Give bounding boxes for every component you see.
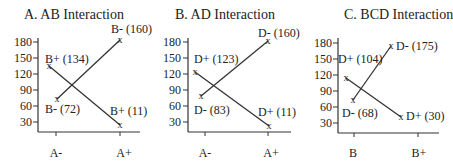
x-tick-label: B+ (412, 146, 427, 160)
x-tick-label: A+ (116, 146, 132, 160)
x-tick-label: A- (199, 146, 212, 160)
point-labels: B+ (134) B+ (11) B- (72) B- (160) (45, 22, 152, 118)
svg-text:30: 30 (320, 116, 332, 130)
y-ticks (183, 42, 188, 122)
svg-text:B+ (11): B+ (11) (110, 104, 147, 118)
y-tick-labels: 180 150 120 90 60 30 (163, 35, 181, 129)
svg-text:30: 30 (169, 115, 181, 129)
svg-text:60: 60 (320, 100, 332, 114)
chart-plot: 180 150 120 90 60 30 A- A+ xx xx B+ (134… (0, 0, 151, 165)
series-line-d-minus (201, 41, 268, 96)
svg-text:90: 90 (169, 83, 181, 97)
svg-text:D+ (30): D+ (30) (406, 109, 444, 123)
svg-text:90: 90 (20, 83, 32, 97)
x-tick-label: B (349, 146, 357, 160)
svg-text:D+ (11): D+ (11) (258, 105, 296, 119)
svg-text:x: x (351, 94, 356, 105)
svg-text:180: 180 (14, 35, 32, 49)
svg-text:180: 180 (163, 35, 181, 49)
svg-text:B- (160): B- (160) (111, 22, 152, 36)
svg-text:D+ (104): D+ (104) (338, 52, 382, 66)
svg-text:90: 90 (320, 84, 332, 98)
svg-text:30: 30 (20, 115, 32, 129)
svg-text:150: 150 (14, 51, 32, 65)
chart-plot: 180 150 120 90 60 30 A- A+ xx xx D+ (123… (151, 0, 302, 165)
panel-ad-interaction: B. AD Interaction 180 150 120 90 60 30 A… (151, 0, 302, 165)
svg-text:D+ (123): D+ (123) (194, 52, 238, 66)
svg-text:120: 120 (163, 67, 181, 81)
svg-text:D- (160): D- (160) (258, 26, 300, 40)
point-labels: D+ (123) D+ (11) D- (83) D- (160) (194, 26, 300, 119)
panel-bcd-interaction: C. BCD Interaction 180 150 120 90 60 30 … (302, 0, 453, 165)
svg-text:120: 120 (14, 67, 32, 81)
svg-text:B+ (134): B+ (134) (45, 52, 89, 66)
svg-text:x: x (199, 90, 204, 101)
svg-text:60: 60 (20, 99, 32, 113)
svg-text:x: x (344, 72, 349, 83)
svg-text:D- (68): D- (68) (342, 106, 378, 120)
svg-text:x: x (399, 111, 404, 122)
svg-text:x: x (193, 66, 198, 77)
y-ticks (33, 42, 38, 122)
y-tick-labels: 180 150 120 90 60 30 (314, 36, 332, 130)
x-tick-label: A+ (263, 146, 279, 160)
svg-text:150: 150 (163, 51, 181, 65)
svg-text:B- (72): B- (72) (45, 102, 80, 116)
x-tick-label: A- (50, 146, 63, 160)
panel-ab-interaction: A. AB Interaction 180 150 120 90 60 30 A… (0, 0, 151, 165)
series-line-b-minus (57, 40, 120, 99)
svg-text:x: x (389, 40, 394, 51)
svg-text:180: 180 (314, 36, 332, 50)
svg-text:x: x (118, 119, 123, 130)
svg-text:120: 120 (314, 68, 332, 82)
svg-text:150: 150 (314, 52, 332, 66)
svg-text:60: 60 (169, 99, 181, 113)
svg-text:x: x (267, 120, 272, 131)
svg-text:D- (175): D- (175) (396, 39, 438, 53)
chart-plot: 180 150 120 90 60 30 B B+ xx xx D+ (104)… (302, 0, 453, 165)
svg-text:D- (83): D- (83) (194, 103, 230, 117)
y-tick-labels: 180 150 120 90 60 30 (14, 35, 32, 129)
